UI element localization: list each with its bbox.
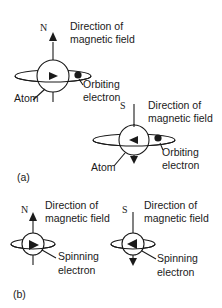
electron-leader-line [142, 251, 156, 259]
electron-label-line2: electron [162, 159, 200, 171]
pole-label-s: S [122, 204, 128, 215]
field-label-line1: Direction of [144, 199, 197, 211]
field-label-line2: magnetic field [148, 112, 213, 124]
field-label-line2: magnetic field [45, 212, 110, 224]
atom-leader-line [114, 153, 125, 166]
electron-label-line1: Orbiting [162, 146, 199, 158]
electron-label-line2: electron [157, 266, 195, 278]
arrow-down-icon [129, 258, 137, 266]
field-label-line1: Direction of [148, 99, 201, 111]
field-label-line2: magnetic field [144, 212, 209, 224]
pole-label-n: N [21, 204, 28, 215]
atom-south-group: S Direction of magnetic field Orbiting e… [91, 99, 213, 173]
pole-label-s: S [120, 100, 126, 111]
electron-dot-icon [74, 71, 81, 78]
field-label-line1: Direction of [70, 20, 123, 32]
arrow-up-icon [29, 212, 37, 221]
part-a-label: (a) [17, 171, 30, 183]
magnetism-diagram: N Direction of magnetic field Orbiting e… [0, 0, 222, 308]
electron-label-line1: Orbiting [83, 78, 120, 90]
atom-label: Atom [91, 161, 116, 173]
electron-leader-line [42, 250, 56, 258]
field-label-line1: Direction of [45, 199, 98, 211]
spin-south-group: S Direction of magnetic field Spinning e… [111, 199, 209, 278]
electron-label-line2: electron [58, 264, 96, 276]
spin-north-group: N Direction of magnetic field Spinning e… [11, 199, 110, 276]
field-label-line2: magnetic field [70, 33, 135, 45]
atom-north-group: N Direction of magnetic field Orbiting e… [14, 20, 135, 104]
arrow-down-icon [130, 156, 138, 164]
pole-label-n: N [40, 22, 47, 33]
atom-label: Atom [14, 92, 39, 104]
arrow-up-icon [49, 32, 57, 41]
electron-dot-icon [154, 134, 161, 141]
electron-label-line1: Spinning [157, 252, 198, 264]
electron-label-line2: electron [83, 91, 121, 103]
part-b-label: (b) [13, 288, 26, 300]
electron-label-line1: Spinning [58, 250, 99, 262]
